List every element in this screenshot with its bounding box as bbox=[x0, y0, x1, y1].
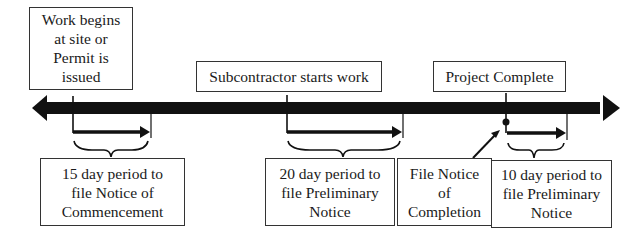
event-label-line: Project Complete bbox=[434, 67, 565, 86]
event-box-project-complete: Project Complete bbox=[433, 61, 566, 92]
period-label-line: Notice bbox=[266, 202, 394, 221]
period-label-line: file Preliminary bbox=[266, 183, 394, 202]
event-label-line: issued bbox=[30, 67, 132, 86]
event-label-line: Permit is bbox=[30, 48, 132, 67]
period-box-preliminary-20: 20 day period to file Preliminary Notice bbox=[265, 158, 395, 226]
event-box-subcontractor-starts: Subcontractor starts work bbox=[196, 61, 382, 92]
period-label-line: Notice bbox=[492, 203, 611, 222]
brace-preliminary-10 bbox=[508, 143, 564, 158]
completion-pointer-arrow bbox=[473, 130, 500, 158]
timeline-arrow bbox=[32, 95, 620, 121]
event-label-line: at site or bbox=[30, 29, 132, 48]
event-label-line: Subcontractor starts work bbox=[197, 67, 381, 86]
event-label-line: Work begins bbox=[30, 10, 132, 29]
period-label-line: Completion bbox=[398, 202, 491, 221]
period-box-notice-of-completion: File Notice of Completion bbox=[397, 158, 492, 226]
period-label-line: 15 day period to bbox=[41, 164, 184, 183]
brace-preliminary-20 bbox=[288, 141, 400, 157]
brace-commencement bbox=[74, 141, 148, 157]
period-box-preliminary-10: 10 day period to file Preliminary Notice bbox=[491, 160, 612, 228]
preliminary-20-period-arrow bbox=[287, 95, 403, 138]
event-box-work-begins: Work begins at site or Permit is issued bbox=[29, 7, 133, 90]
preliminary-10-period-arrow bbox=[503, 93, 568, 140]
period-label-line: 10 day period to bbox=[492, 165, 611, 184]
period-label-line: File Notice bbox=[398, 164, 491, 183]
period-box-notice-of-commencement: 15 day period to file Notice of Commence… bbox=[40, 158, 185, 226]
period-label-line: file Preliminary bbox=[492, 184, 611, 203]
period-label-line: 20 day period to bbox=[266, 164, 394, 183]
period-label-line: file Notice of bbox=[41, 183, 184, 202]
period-label-line: Commencement bbox=[41, 202, 184, 221]
period-label-line: of bbox=[398, 183, 491, 202]
